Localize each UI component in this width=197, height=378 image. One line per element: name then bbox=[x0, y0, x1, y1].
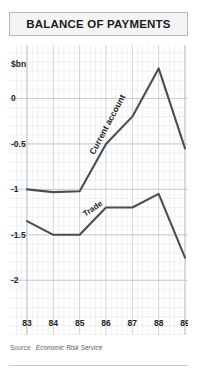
series-inline-labels: Current accountTrade bbox=[81, 93, 127, 219]
y-tick-label: 0 bbox=[11, 93, 16, 103]
x-tick-label: 89 bbox=[180, 318, 188, 328]
source-note: Source: Economic Risk Service bbox=[10, 344, 102, 351]
source-name: Economic Risk Service bbox=[36, 344, 102, 351]
x-tick-label: 86 bbox=[101, 318, 111, 328]
x-tick-label: 85 bbox=[75, 318, 85, 328]
series-label: Current account bbox=[87, 93, 127, 156]
chart-title-box: BALANCE OF PAYMENTS bbox=[9, 12, 188, 36]
y-axis-tick-labels: $bn0-0.5-1-1.5-2 bbox=[11, 59, 26, 285]
x-tick-label: 84 bbox=[49, 318, 59, 328]
y-tick-label: -2 bbox=[11, 275, 19, 285]
y-tick-label: -1 bbox=[11, 184, 19, 194]
y-tick-label: -1.5 bbox=[11, 230, 26, 240]
source-separator: : bbox=[31, 345, 34, 351]
chart-plot-area: $bn0-0.5-1-1.5-2 83848586878889 Current … bbox=[9, 45, 188, 335]
y-axis-unit-label: $bn bbox=[11, 59, 26, 69]
x-tick-label: 88 bbox=[154, 318, 164, 328]
page-title: BALANCE OF PAYMENTS bbox=[26, 18, 170, 30]
line-chart: $bn0-0.5-1-1.5-2 83848586878889 Current … bbox=[9, 45, 188, 335]
balance-of-payments-figure: BALANCE OF PAYMENTS $bn0-0.5-1-1.5-2 838… bbox=[0, 0, 197, 378]
x-tick-label: 83 bbox=[22, 318, 32, 328]
footer-divider bbox=[9, 365, 188, 366]
x-tick-label: 87 bbox=[128, 318, 138, 328]
y-tick-label: -0.5 bbox=[11, 139, 26, 149]
source-label: Source bbox=[10, 344, 31, 351]
x-axis-tick-labels: 83848586878889 bbox=[22, 318, 188, 328]
